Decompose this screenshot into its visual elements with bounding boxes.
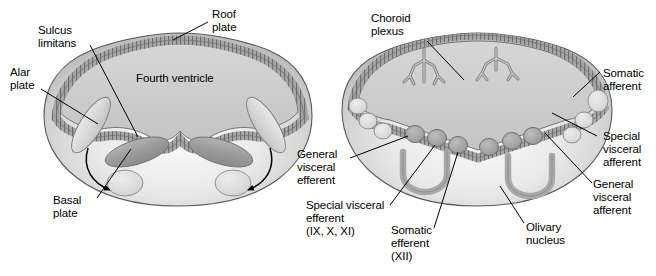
label-choroid-plexus: Choroid plexus — [371, 12, 411, 38]
label-olivary-nucleus: Olivary nucleus — [526, 221, 565, 247]
label-general-visceral-afferent: General visceral afferent — [593, 178, 633, 218]
label-somatic-efferent: Somatic efferent (XII) — [391, 224, 432, 264]
inferior-olivary-anlage-left — [107, 170, 143, 196]
label-basal-plate: Basal plate — [53, 194, 81, 220]
inferior-olivary-anlage-right — [215, 170, 251, 196]
sve-nucleus — [428, 130, 447, 147]
label-alar-plate: Alar plate — [10, 66, 34, 92]
se-nucleus — [449, 137, 468, 154]
label-fourth-ventricle: Fourth ventricle — [136, 72, 214, 85]
label-roof-plate: Roof plate — [212, 8, 236, 34]
label-special-visceral-efferent: Special visceral efferent (IX, X, XI) — [306, 199, 384, 239]
label-general-visceral-efferent: General visceral efferent — [297, 148, 337, 188]
figure-canvas: Sulcus limitans Roof plate Alar plate Fo… — [0, 0, 656, 276]
gve-nucleus — [406, 126, 425, 143]
left-panel-medulla — [41, 22, 312, 206]
label-special-visceral-afferent: Special visceral afferent — [603, 130, 641, 170]
label-somatic-afferent: Somatic afferent — [603, 67, 644, 93]
label-sulcus-limitans: Sulcus limitans — [38, 24, 76, 50]
general-visceral-afferent-nucleus — [563, 127, 581, 143]
